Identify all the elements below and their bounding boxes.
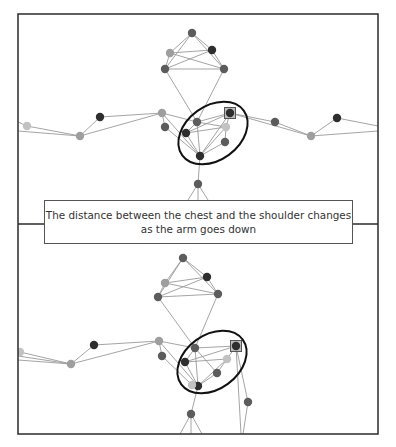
joint-chest-b2 [188,381,196,389]
joint-spine [187,410,195,418]
joint-chest-l [181,358,189,366]
joint-head-top [188,29,196,37]
joint-chest-r2 [221,138,229,146]
bone-line [243,402,248,434]
joint-l-wrist [76,132,84,140]
bone-line [158,297,195,348]
joint-r-elbow [271,118,279,126]
joint-head-ll [161,65,169,73]
joint-chest-r [223,355,231,363]
joint-chest-bottom [196,152,204,160]
bone-line [170,33,192,53]
bone-line [230,113,275,122]
joint-chest-l [182,129,190,137]
joint-head-ul [161,279,169,287]
caption-box: The distance between the chest and the s… [44,200,353,244]
joint-r-hand [333,114,341,122]
joint-chest-r2 [213,369,221,377]
panel-arm-lowered [16,254,259,434]
joint-l-hand [23,122,31,130]
panel-arm-raised [18,29,378,200]
bone-line [183,258,218,294]
joint-head-top [179,254,187,262]
joint-head-ur [203,273,211,281]
bone-line [311,118,337,136]
joint-l-elbow [96,113,104,121]
bone-line [191,386,198,414]
joint-r-shoulder [226,109,234,117]
bone-line [337,118,378,126]
bone-line [311,131,378,136]
joint-head-ll [154,293,162,301]
bone-line [94,341,159,345]
joint-r-wrist [307,132,315,140]
joint-spine [194,180,202,188]
bone-line [200,142,225,156]
bone-line [165,283,218,294]
joint-neck [191,344,199,352]
joint-head-ul [166,49,174,57]
bone-line [195,348,198,386]
joint-l-hand [16,348,24,356]
bone-line [158,258,183,297]
joint-l-wrist [67,360,75,368]
bone-line [183,258,207,277]
joint-r-shoulder [232,342,240,350]
caption-line-2: as the arm goes down [141,222,256,236]
joint-l-shoulder2 [158,352,166,360]
joint-l-shoulder [158,109,166,117]
joint-l-shoulder2 [161,123,169,131]
bone-line [27,126,80,136]
joint-l-shoulder [155,337,163,345]
joint-head-lr [220,65,228,73]
bone-line [198,156,200,184]
bone-line [100,113,162,117]
highlight-ellipse [165,318,258,406]
bone-line [185,359,227,362]
joint-head-ur [208,46,216,54]
bone-line [275,122,311,136]
bone-line [18,356,71,364]
joint-head-lr [214,290,222,298]
caption-line-1: The distance between the chest and the s… [46,208,351,222]
bone-line [71,341,159,364]
bone-line [230,113,311,136]
bone-line [18,131,80,136]
bone-line [195,294,218,348]
joint-r-elbow [244,398,252,406]
joint-neck [193,118,201,126]
bone-line [198,359,227,386]
bone-line [197,69,224,122]
highlight-ellipse [166,89,259,177]
joint-l-elbow [90,341,98,349]
bone-line [158,294,218,297]
joint-chest-r [222,123,230,131]
